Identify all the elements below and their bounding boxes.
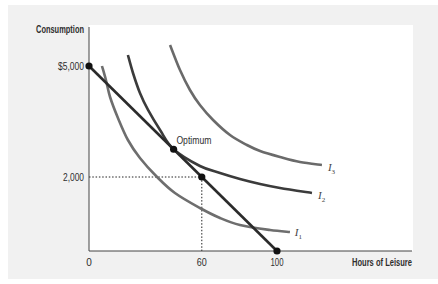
y-axis-title: Consumption bbox=[36, 23, 84, 35]
curve-label-subscript: 3 bbox=[332, 168, 336, 176]
x-tick-label: 60 bbox=[197, 257, 207, 268]
curve-label-subscript: 1 bbox=[299, 233, 303, 241]
optimum-point bbox=[170, 146, 177, 153]
plot-area bbox=[89, 25, 413, 251]
budget-intercept-x-point bbox=[273, 247, 280, 254]
x-tick-label: 0 bbox=[86, 257, 92, 268]
y-tick-label: 2,000 bbox=[63, 172, 84, 183]
budget-intercept-y-point bbox=[85, 62, 92, 69]
indifference-curve-chart: Consumption Hours of Leisure 2,000 $5,00… bbox=[0, 0, 438, 284]
x-tick-label: 100 bbox=[271, 257, 284, 268]
point-60-2000-point bbox=[198, 173, 205, 180]
curve-label-subscript: 2 bbox=[322, 196, 326, 204]
y-tick-label: $5,000 bbox=[58, 61, 84, 72]
optimum-label: Optimum bbox=[176, 135, 211, 146]
x-axis-title: Hours of Leisure bbox=[352, 256, 412, 268]
